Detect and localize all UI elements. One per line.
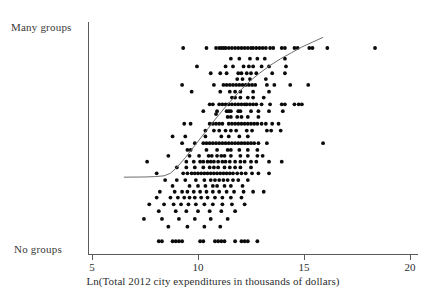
scatter-point xyxy=(321,141,325,145)
scatter-point xyxy=(211,202,215,206)
scatter-point xyxy=(230,202,234,206)
scatter-point xyxy=(171,134,175,138)
scatter-point xyxy=(217,129,221,133)
scatter-point xyxy=(229,109,233,113)
scatter-point xyxy=(235,77,239,81)
scatter-point xyxy=(240,115,244,119)
scatter-point xyxy=(254,160,258,164)
scatter-point xyxy=(231,65,235,69)
scatter-point xyxy=(267,160,271,164)
x-axis-tick-label: 5 xyxy=(89,261,95,273)
scatter-point xyxy=(269,129,273,133)
scatter-point xyxy=(229,148,233,152)
scatter-point xyxy=(246,134,250,138)
scatter-point xyxy=(226,178,230,182)
scatter-point xyxy=(245,129,249,133)
scatter-point xyxy=(189,122,193,126)
scatter-point xyxy=(182,122,186,126)
scatter-point xyxy=(226,217,230,221)
scatter-point xyxy=(251,65,255,69)
scatter-point xyxy=(288,83,292,87)
scatter-point xyxy=(213,196,217,200)
scatter-point xyxy=(265,129,269,133)
scatter-point xyxy=(180,239,184,243)
scatter-point xyxy=(251,96,255,100)
scatter-point xyxy=(157,209,161,213)
scatter-point xyxy=(229,57,233,61)
scatter-point xyxy=(249,166,253,170)
scatter-point xyxy=(265,141,269,145)
scatter-point xyxy=(181,46,185,50)
scatter-point xyxy=(240,171,244,175)
scatter-point xyxy=(212,160,216,164)
scatter-point xyxy=(160,239,164,243)
scatter-point xyxy=(257,109,261,113)
scatter-point xyxy=(239,160,243,164)
scatter-point xyxy=(257,171,261,175)
scatter-point xyxy=(182,196,186,200)
scatter-point xyxy=(172,202,176,206)
scatter-point xyxy=(184,160,188,164)
scatter-point xyxy=(206,196,210,200)
scatter-point xyxy=(198,190,202,194)
scatter-point xyxy=(325,46,329,50)
scatter-point xyxy=(194,202,198,206)
scatter-point xyxy=(219,209,223,213)
scatter-point xyxy=(171,184,175,188)
scatter-point xyxy=(235,115,239,119)
plot-canvas: 5101520 xyxy=(0,0,426,304)
scatter-point xyxy=(241,77,245,81)
scatter-point xyxy=(239,109,243,113)
scatter-point xyxy=(268,102,272,106)
scatter-point xyxy=(254,102,258,106)
scatter-point xyxy=(262,96,266,100)
x-axis-tick-label: 10 xyxy=(193,261,205,273)
scatter-point xyxy=(204,134,208,138)
scatter-point xyxy=(224,65,228,69)
scatter-point xyxy=(218,71,222,75)
scatter-point xyxy=(174,209,178,213)
scatter-point xyxy=(225,71,229,75)
scatter-point xyxy=(223,239,227,243)
scatter-point xyxy=(236,178,240,182)
scatter-point xyxy=(250,171,254,175)
scatter-point xyxy=(193,166,197,170)
scatter-point xyxy=(283,46,287,50)
scatter-point xyxy=(246,154,250,158)
scatter-point xyxy=(239,154,243,158)
scatter-plot-figure: 5101520 Many groups No groups Ln(Total 2… xyxy=(0,0,426,304)
scatter-point xyxy=(229,129,233,133)
scatter-point xyxy=(180,190,184,194)
scatter-point xyxy=(205,46,209,50)
x-axis-tick-label: 20 xyxy=(405,261,417,273)
scatter-point xyxy=(252,141,256,145)
scatter-point xyxy=(201,109,205,113)
scatter-point xyxy=(228,160,232,164)
scatter-point xyxy=(283,102,287,106)
scatter-point xyxy=(231,171,235,175)
scatter-point xyxy=(283,71,287,75)
scatter-point xyxy=(263,57,267,61)
scatter-point xyxy=(239,96,243,100)
scatter-point xyxy=(241,184,245,188)
scatter-point xyxy=(201,239,205,243)
y-axis-bottom-label: No groups xyxy=(14,243,62,255)
scatter-point xyxy=(193,217,197,221)
scatter-point xyxy=(142,217,146,221)
scatter-point xyxy=(244,171,248,175)
scatter-point xyxy=(255,239,259,243)
y-axis-top-label: Many groups xyxy=(11,21,72,33)
scatter-point xyxy=(213,178,217,182)
scatter-point xyxy=(202,225,206,229)
scatter-point xyxy=(242,65,246,69)
scatter-point xyxy=(155,196,159,200)
scatter-point xyxy=(202,178,206,182)
scatter-point xyxy=(233,160,237,164)
scatter-point xyxy=(246,115,250,119)
scatter-point xyxy=(194,178,198,182)
scatter-point xyxy=(306,83,310,87)
scatter-point xyxy=(192,190,196,194)
scatter-point xyxy=(211,190,215,194)
scatter-point xyxy=(311,46,315,50)
scatter-point xyxy=(223,166,227,170)
